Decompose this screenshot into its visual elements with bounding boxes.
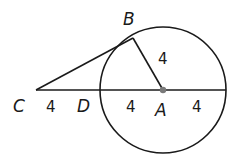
center-point-A [160, 87, 166, 93]
length-label-DA: 4 [126, 98, 136, 116]
geometry-diagram: B C D A 4 4 4 4 [0, 0, 236, 156]
length-label-CD: 4 [46, 98, 56, 116]
length-label-AE: 4 [192, 98, 202, 116]
length-label-AB: 4 [158, 50, 168, 68]
label-D: D [77, 96, 90, 116]
tangent-segment-CB [36, 38, 133, 90]
label-C: C [13, 96, 25, 116]
label-A: A [154, 100, 167, 120]
label-B: B [123, 9, 135, 29]
